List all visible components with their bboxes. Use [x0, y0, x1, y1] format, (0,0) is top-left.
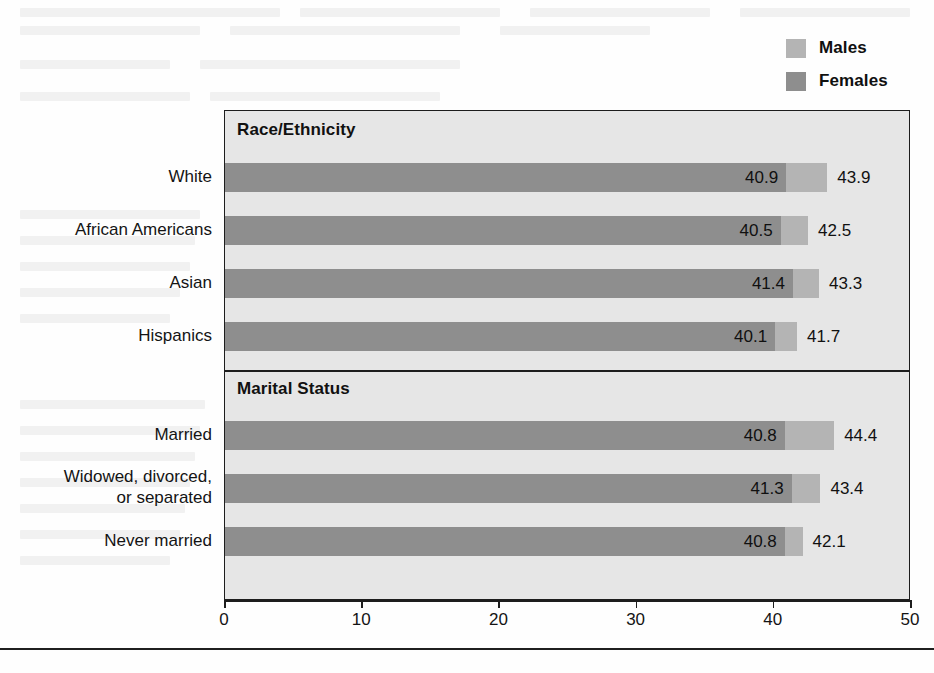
ghost-text-line: [500, 26, 650, 35]
category-label: Asian: [8, 272, 224, 293]
x-axis-tick: [361, 600, 363, 608]
bar-value-females: 40.8: [744, 532, 777, 552]
plot-area: Race/Ethnicity Marital Status 40.943.940…: [224, 110, 910, 600]
female-value-slot: 41.3: [225, 474, 792, 503]
category-label: Married: [8, 424, 224, 445]
bar-value-males: 42.5: [818, 221, 851, 241]
bar-row[interactable]: 41.443.3: [225, 269, 819, 298]
x-axis-tick: [224, 600, 226, 608]
category-label-line: Hispanics: [8, 325, 212, 346]
figure-page: MalesFemales WhiteAfrican AmericansAsian…: [0, 0, 934, 673]
panel-title-race-ethnicity: Race/Ethnicity: [237, 120, 356, 140]
female-value-slot: 40.1: [225, 322, 775, 351]
ghost-text-line: [530, 8, 710, 17]
bar-row[interactable]: 40.844.4: [225, 421, 834, 450]
x-axis-tick-label: 0: [219, 610, 228, 630]
ghost-text-line: [20, 8, 280, 17]
legend-swatch-icon-males: [786, 39, 806, 58]
x-axis-tick: [773, 600, 775, 608]
panel-title-marital-status: Marital Status: [237, 379, 350, 399]
category-label: White: [8, 166, 224, 187]
legend-swatch-icon-females: [786, 72, 806, 91]
bar-row[interactable]: 40.141.7: [225, 322, 797, 351]
ghost-text-line: [20, 92, 190, 101]
female-value-slot: 40.8: [225, 527, 785, 556]
x-axis-tick-label: 40: [763, 610, 782, 630]
ghost-text-line: [250, 60, 460, 69]
category-label-line: White: [8, 166, 212, 187]
bar-value-males: 43.9: [837, 168, 870, 188]
category-label: Hispanics: [8, 325, 224, 346]
female-value-slot: 40.5: [225, 216, 781, 245]
x-axis-line: [224, 600, 910, 602]
bar-value-females: 40.9: [745, 168, 778, 188]
bar-value-females: 40.1: [734, 327, 767, 347]
panel-divider: [225, 370, 909, 372]
legend-label: Males: [819, 38, 867, 58]
ghost-text-line: [740, 8, 910, 17]
bar-value-females: 40.5: [740, 221, 773, 241]
page-bottom-rule: [0, 648, 934, 650]
x-axis-tick: [498, 600, 500, 608]
category-label-line: African Americans: [8, 219, 212, 240]
ghost-text-line: [230, 26, 460, 35]
ghost-text-line: [200, 60, 320, 69]
bar-value-males: 41.7: [807, 327, 840, 347]
category-label: Widowed, divorced,or separated: [8, 466, 224, 508]
ghost-text-line: [300, 8, 500, 17]
bar-value-males: 44.4: [844, 426, 877, 446]
category-label-line: Never married: [8, 530, 212, 551]
category-label-column: WhiteAfrican AmericansAsianHispanicsMarr…: [0, 110, 224, 600]
bar-row[interactable]: 40.842.1: [225, 527, 803, 556]
category-label-line: Married: [8, 424, 212, 445]
category-label: African Americans: [8, 219, 224, 240]
female-value-slot: 40.8: [225, 421, 785, 450]
bar-value-males: 43.4: [830, 479, 863, 499]
bar-value-males: 42.1: [813, 532, 846, 552]
x-axis-tick: [910, 600, 912, 608]
ghost-text-line: [250, 92, 440, 101]
ghost-text-line: [210, 92, 340, 101]
category-label-line: or separated: [8, 487, 212, 508]
bar-value-males: 43.3: [829, 274, 862, 294]
bar-value-females: 41.3: [751, 479, 784, 499]
category-label-line: Asian: [8, 272, 212, 293]
female-value-slot: 40.9: [225, 163, 786, 192]
bar-row[interactable]: 40.943.9: [225, 163, 827, 192]
female-value-slot: 41.4: [225, 269, 793, 298]
x-axis-tick-label: 20: [489, 610, 508, 630]
legend-item-males[interactable]: Males: [786, 38, 888, 58]
bar-value-females: 40.8: [744, 426, 777, 446]
x-axis-tick: [636, 600, 638, 608]
ghost-text-line: [20, 60, 170, 69]
category-label: Never married: [8, 530, 224, 551]
bar-row[interactable]: 41.343.4: [225, 474, 820, 503]
chart-legend: MalesFemales: [786, 38, 888, 91]
category-label-line: Widowed, divorced,: [8, 466, 212, 487]
x-axis-tick-label: 30: [626, 610, 645, 630]
x-axis-tick-label: 10: [352, 610, 371, 630]
legend-label: Females: [819, 71, 888, 91]
bar-value-females: 41.4: [752, 274, 785, 294]
ghost-text-line: [20, 26, 200, 35]
legend-item-females[interactable]: Females: [786, 71, 888, 91]
x-axis-tick-label: 50: [901, 610, 920, 630]
bar-row[interactable]: 40.542.5: [225, 216, 808, 245]
